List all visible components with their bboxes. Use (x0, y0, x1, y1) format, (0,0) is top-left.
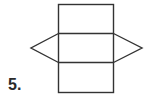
prism-net-figure (0, 0, 152, 100)
problem-number: 5. (8, 77, 21, 93)
left-triangular-face (31, 34, 59, 63)
right-triangular-face (114, 34, 143, 63)
prism-net-diagram (0, 0, 152, 100)
prism-rectangular-faces (59, 5, 114, 93)
